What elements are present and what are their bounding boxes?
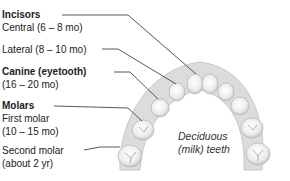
caption-line-1: Deciduous	[178, 130, 228, 143]
first-molar-label: First molar	[2, 113, 49, 125]
tooth-left-first-molar	[132, 120, 154, 140]
second-molar-range: (about 2 yr)	[2, 158, 53, 170]
tooth-right-second-molar	[246, 143, 270, 165]
molars-heading: Molars	[2, 100, 34, 112]
tooth-right-first-molar	[241, 118, 263, 138]
tooth-left-central	[187, 74, 203, 94]
canine-heading: Canine (eyetooth)	[2, 66, 86, 78]
caption-line-2: (milk) teeth	[178, 143, 230, 156]
leader-first-molar	[54, 106, 142, 121]
incisors-heading: Incisors	[2, 9, 40, 21]
leader-second-molar	[84, 147, 120, 150]
tooth-right-canine	[231, 97, 249, 115]
central-incisor-label: Central (6 – 8 mo)	[2, 22, 83, 34]
second-molar-label: Second molar	[2, 145, 64, 157]
canine-range: (16 – 20 mo)	[2, 79, 59, 91]
tooth-right-lateral	[218, 83, 234, 101]
first-molar-range: (10 – 15 mo)	[2, 126, 59, 138]
tooth-right-central	[202, 74, 218, 94]
lateral-incisor-label: Lateral (8 – 10 mo)	[2, 44, 87, 56]
tooth-left-second-molar	[118, 145, 142, 167]
tooth-left-canine	[151, 99, 169, 117]
tooth-left-lateral	[169, 83, 185, 101]
